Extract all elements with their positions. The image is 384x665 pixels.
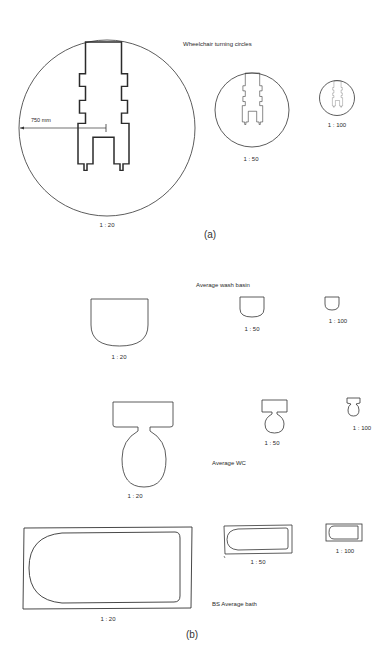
wheelchair-circle-1-100 (320, 81, 355, 116)
dimension-label: 750 mm (31, 117, 51, 123)
wheelchair-title: Wheelchair turning circles (183, 41, 252, 47)
scale-label-wheelchair-1-20: 1 : 20 (99, 222, 114, 228)
scale-label-basin-1-20: 1 : 20 (111, 354, 126, 360)
scale-label-basin-1-100: 1 : 100 (329, 318, 347, 324)
diagram-canvas (0, 0, 384, 665)
wash-basin-1-20 (91, 299, 148, 346)
bath-1-50 (224, 525, 292, 558)
wash-basin-1-100 (325, 297, 339, 310)
bath-1-20 (23, 527, 192, 609)
scale-label-bath-1-100: 1 : 100 (336, 548, 354, 554)
scale-label-bath-1-20: 1 : 20 (100, 616, 115, 622)
bath-1-100 (326, 524, 362, 541)
scale-label-wheelchair-1-50: 1 : 50 (243, 156, 258, 162)
wash-basin-1-50 (240, 297, 264, 317)
bath-title: BS Average bath (212, 601, 257, 607)
scale-label-bath-1-50: 1 : 50 (250, 559, 265, 565)
wc-title: Average WC (212, 460, 246, 466)
wheelchair-circle-1-20 (19, 40, 195, 216)
scale-label-wheelchair-1-100: 1 : 100 (328, 122, 346, 128)
part-label-b: (b) (186, 629, 198, 640)
wc-1-100 (347, 398, 360, 416)
scale-label-wc-1-50: 1 : 50 (264, 440, 279, 446)
wash-basin-title: Average wash basin (196, 282, 250, 288)
scale-label-wc-1-20: 1 : 20 (127, 493, 142, 499)
wc-1-50 (262, 400, 287, 433)
wheelchair-circle-1-50 (215, 73, 289, 147)
wc-1-20 (113, 402, 173, 487)
part-label-a: (a) (204, 229, 216, 240)
scale-label-wc-1-100: 1 : 100 (353, 425, 371, 431)
scale-label-basin-1-50: 1 : 50 (244, 326, 259, 332)
